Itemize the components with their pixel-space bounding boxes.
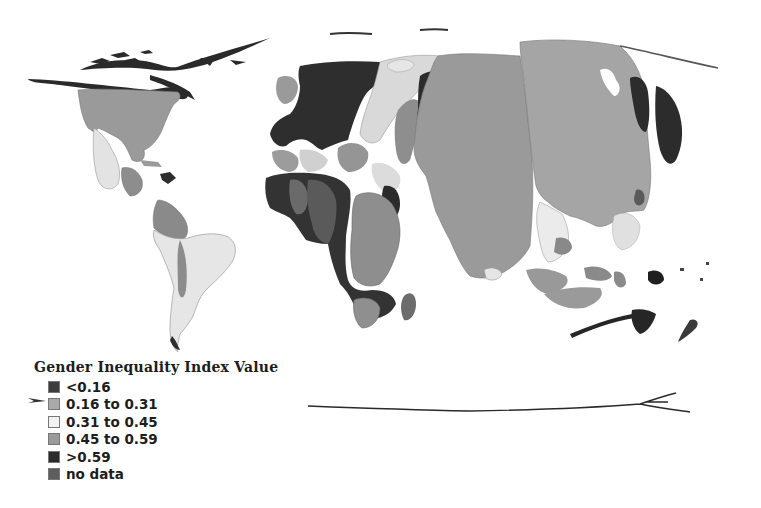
region-japan <box>655 86 682 164</box>
region-europe-mid <box>299 149 328 172</box>
legend-swatch <box>48 398 60 410</box>
region-mexico <box>93 128 119 189</box>
region-new-zealand <box>678 319 698 342</box>
region-africa-south <box>353 298 380 328</box>
legend-swatch <box>48 416 60 428</box>
region-papua <box>648 270 664 284</box>
region-india <box>414 54 533 278</box>
legend-item-gt-059: >0.59 <box>48 448 278 466</box>
region-caribbean <box>160 172 176 184</box>
legend-label: <0.16 <box>66 379 111 395</box>
region-indochina <box>554 237 572 254</box>
legend-label: 0.45 to 0.59 <box>66 431 158 447</box>
legend-swatch <box>48 451 60 463</box>
region-australia-arm <box>570 314 634 338</box>
region-south-america <box>153 230 235 352</box>
legend: Gender Inequality Index Value <0.16 0.16… <box>48 359 278 483</box>
region-indonesia-east <box>584 266 612 280</box>
region-madagascar <box>401 293 416 320</box>
region-turkey <box>337 143 368 172</box>
legend-swatch <box>48 381 60 393</box>
legend-title: Gender Inequality Index Value <box>34 359 278 375</box>
legend-item-lt-016: <0.16 <box>48 378 278 396</box>
region-europe-south <box>272 150 299 172</box>
region-china <box>520 40 651 226</box>
legend-item-no-data: no data <box>48 466 278 484</box>
legend-label: 0.16 to 0.31 <box>66 396 158 412</box>
legend-swatch <box>48 433 60 445</box>
region-antarctica <box>308 393 690 412</box>
region-philippines <box>612 213 640 250</box>
region-australia <box>631 309 656 334</box>
region-iceland <box>276 76 298 104</box>
region-central-america <box>121 168 142 197</box>
region-africa-east <box>351 193 400 286</box>
legend-item-031-045: 0.31 to 0.45 <box>48 413 278 431</box>
legend-label: no data <box>66 466 124 482</box>
region-caribbean-2 <box>140 160 162 167</box>
legend-label: 0.31 to 0.45 <box>66 414 158 430</box>
region-indonesia-east2 <box>614 272 626 288</box>
region-pacific-islands <box>680 262 709 281</box>
legend-swatch <box>48 468 60 480</box>
region-small-arrow <box>28 398 46 403</box>
legend-item-016-031: 0.16 to 0.31 <box>48 396 278 414</box>
legend-label: >0.59 <box>66 449 111 465</box>
legend-item-045-059: 0.45 to 0.59 <box>48 431 278 449</box>
region-north-strip <box>330 29 448 34</box>
